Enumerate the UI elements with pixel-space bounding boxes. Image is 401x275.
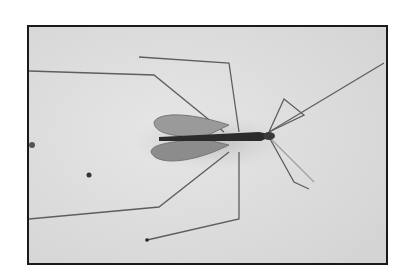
photo-frame xyxy=(27,25,388,265)
speck xyxy=(145,238,149,242)
speck xyxy=(87,173,92,178)
insect-photo xyxy=(29,27,386,263)
speck xyxy=(29,142,35,148)
insect-head xyxy=(263,132,275,140)
